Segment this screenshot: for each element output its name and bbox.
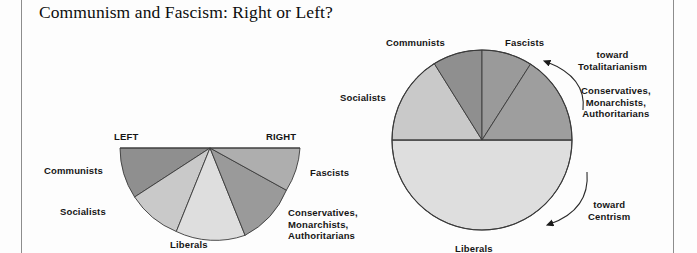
slice-liberals-right [392,140,572,230]
cma-line-1: Conservatives, [288,207,358,218]
label-conservatives-left: Conservatives, Monarchists, Authoritaria… [288,207,358,242]
toward-word-top: toward [597,49,629,60]
label-communists-right: Communists [386,37,445,49]
label-socialists-left: Socialists [60,206,106,218]
label-fascists-left: Fascists [310,167,349,179]
label-left-cap: LEFT [114,131,138,143]
totalitarianism-word: Totalitarianism [578,61,647,72]
centrism-word: Centrism [588,211,630,222]
label-liberals-left: Liberals [170,239,208,251]
label-conservatives-right: Conservatives, Monarchists, Authoritaria… [581,85,651,120]
annotation-toward-centrism: toward Centrism [588,199,630,222]
annotation-toward-totalitarianism: toward Totalitarianism [578,49,647,72]
label-right-cap: RIGHT [266,131,296,143]
label-liberals-right: Liberals [455,243,493,253]
cma-r-line-1: Conservatives, [581,85,651,96]
toward-word-bottom: toward [593,199,625,210]
circle-chart [392,50,572,230]
label-fascists-right: Fascists [505,37,544,49]
semicircle-chart [120,148,300,240]
label-socialists-right: Socialists [340,92,386,104]
cma-line-2: Monarchists, [288,219,348,230]
label-communists-left: Communists [44,165,103,177]
figure-page: Communism and Fascism: Right or Left? [0,0,697,253]
cma-line-3: Authoritarians [288,230,355,241]
cma-r-line-3: Authoritarians [582,108,649,119]
cma-r-line-2: Monarchists, [586,97,646,108]
